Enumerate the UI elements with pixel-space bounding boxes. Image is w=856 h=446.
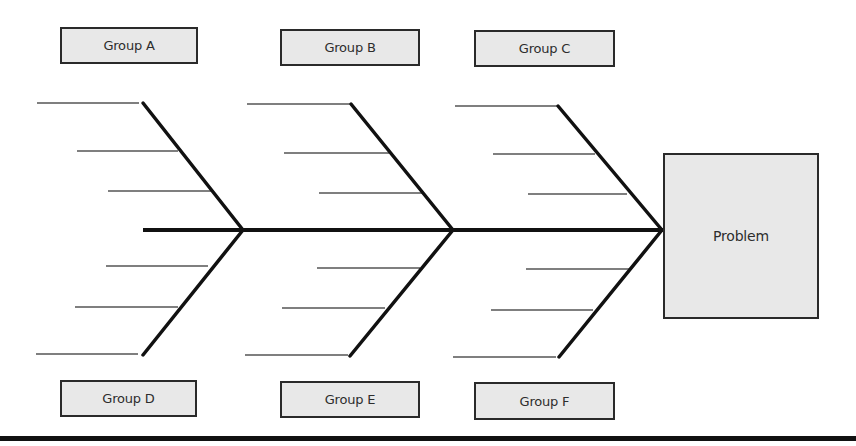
group-f-box: Group F <box>474 382 615 420</box>
bone-b <box>351 104 453 230</box>
group-d-box: Group D <box>60 380 197 417</box>
group-c-box: Group C <box>474 30 615 67</box>
group-b-box: Group B <box>280 29 420 66</box>
bone-d <box>143 230 243 355</box>
group-e-box: Group E <box>280 381 420 418</box>
group-d-label: Group D <box>102 391 154 406</box>
bone-f <box>559 230 662 357</box>
problem-label: Problem <box>713 228 769 244</box>
group-a-box: Group A <box>60 27 198 64</box>
problem-box: Problem <box>663 153 819 319</box>
bone-e <box>350 230 453 356</box>
group-b-label: Group B <box>324 40 375 55</box>
group-f-label: Group F <box>520 394 570 409</box>
bone-a <box>143 103 243 230</box>
group-e-label: Group E <box>325 392 376 407</box>
fishbone-diagram: Group A Group B Group C Group D Group E … <box>0 0 856 446</box>
group-c-label: Group C <box>519 41 570 56</box>
bone-c <box>558 106 662 230</box>
group-a-label: Group A <box>103 38 154 53</box>
bottom-divider <box>0 436 856 441</box>
